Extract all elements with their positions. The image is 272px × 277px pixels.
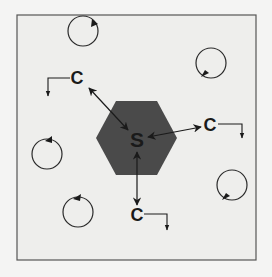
center-label-s: S: [130, 128, 144, 151]
node-label-c-bottom: C: [131, 205, 144, 225]
node-label-c-top-left: C: [71, 68, 84, 88]
diagram-canvas: S C C C: [0, 0, 272, 277]
node-label-c-right: C: [204, 115, 217, 135]
